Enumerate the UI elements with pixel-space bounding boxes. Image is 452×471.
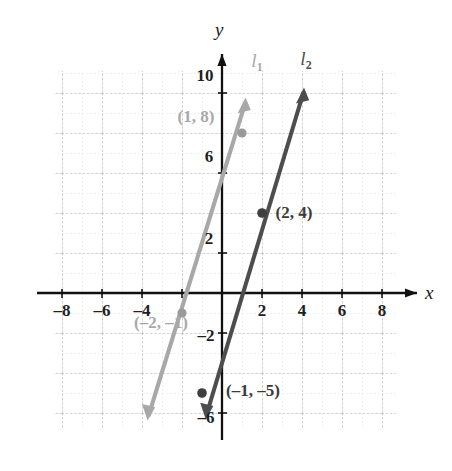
y-axis-label: y — [215, 20, 223, 39]
x-tick-label-4: 4 — [298, 302, 307, 319]
point-label--1--5: (–1, –5) — [226, 382, 280, 399]
x-tick-label-6: 6 — [338, 302, 347, 319]
line-label-l1-subscript: 1 — [257, 60, 263, 74]
x-axis-label: x — [425, 283, 433, 302]
graph-canvas — [0, 0, 452, 471]
x-tick-label--8: –8 — [54, 302, 71, 319]
y-tick-label--6: –6 — [198, 409, 215, 426]
point-marker-1-8 — [237, 128, 246, 137]
y-tick-label-2: 2 — [205, 230, 214, 247]
x-tick-label-2: 2 — [258, 302, 267, 319]
y-tick-label-6: 6 — [205, 148, 214, 165]
y-tick-label--2: –2 — [198, 327, 215, 344]
grid-group — [55, 71, 396, 428]
point-label--2--1: (–2, –1) — [134, 314, 188, 331]
x-axis-arrowhead — [405, 288, 417, 297]
point-marker-2-4 — [257, 208, 267, 218]
y-tick-label-10: 10 — [197, 67, 214, 84]
point-label-2-4: (2, 4) — [276, 204, 313, 221]
point-label-1-8: (1, 8) — [178, 108, 215, 125]
y-axis-arrowhead — [217, 54, 226, 66]
x-tick-label-8: 8 — [378, 302, 387, 319]
point-marker--1--5 — [197, 388, 207, 398]
line-label-l2: l2 — [300, 49, 311, 72]
x-tick-label--6: –6 — [94, 302, 111, 319]
line-label-l2-subscript: 2 — [306, 58, 312, 72]
line-label-l1: l1 — [251, 51, 262, 74]
major-gridlines — [55, 71, 396, 428]
coordinate-graph-figure: x y –8 –6 –4 2 4 6 8 10 6 2 –2 –6 l1 l2 … — [0, 0, 452, 471]
